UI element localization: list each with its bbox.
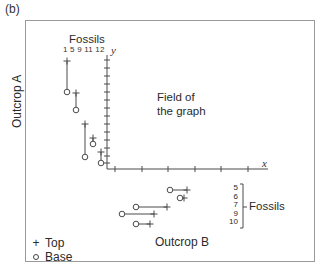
range-outcrop-a-fossil-5 bbox=[73, 90, 80, 113]
legend-top-label: Top bbox=[45, 236, 64, 250]
range-outcrop-a-fossil-12 bbox=[98, 149, 105, 166]
outcrop-b-fossils-label: Fossils bbox=[249, 200, 285, 212]
plus-icon: + bbox=[31, 236, 41, 250]
outcrop-a-fossils-label: Fossils bbox=[69, 33, 105, 45]
range-outcrop-a-fossil-11 bbox=[90, 135, 97, 147]
legend-base: Base bbox=[31, 250, 72, 264]
fossil-number: 10 bbox=[229, 218, 238, 227]
range-outcrop-b-fossil-10 bbox=[133, 221, 153, 228]
outcrop-a-fossil-numbers: 1 5 9 11 12 bbox=[63, 45, 105, 54]
x-axis-label: x bbox=[262, 157, 267, 169]
legend-top: + Top bbox=[31, 236, 72, 250]
outcrop-b-fossil-numbers: 5 6 7 9 10 bbox=[228, 184, 238, 227]
outcrop-b-label: Outcrop B bbox=[155, 235, 209, 249]
outcrop-a-ranges bbox=[64, 58, 105, 166]
range-outcrop-b-fossil-7 bbox=[133, 204, 170, 211]
outcrop-a-label: Outcrop A bbox=[10, 75, 24, 128]
y-axis-label: y bbox=[111, 44, 116, 56]
outcrop-b-ranges bbox=[119, 187, 190, 228]
range-outcrop-b-fossil-6 bbox=[177, 195, 187, 202]
range-outcrop-a-fossil-1 bbox=[64, 58, 71, 95]
range-outcrop-b-fossil-9 bbox=[119, 211, 157, 218]
range-outcrop-a-fossil-9 bbox=[82, 121, 89, 160]
field-of-graph-label: Field of the graph bbox=[157, 90, 206, 118]
circle-icon bbox=[33, 254, 39, 260]
outcrop-b-bracket bbox=[240, 184, 247, 228]
field-label-line1: Field of bbox=[157, 90, 206, 104]
field-label-line2: the graph bbox=[157, 104, 206, 118]
legend-base-label: Base bbox=[45, 250, 72, 264]
range-outcrop-b-fossil-5 bbox=[167, 187, 190, 194]
legend: + Top Base bbox=[31, 236, 72, 264]
